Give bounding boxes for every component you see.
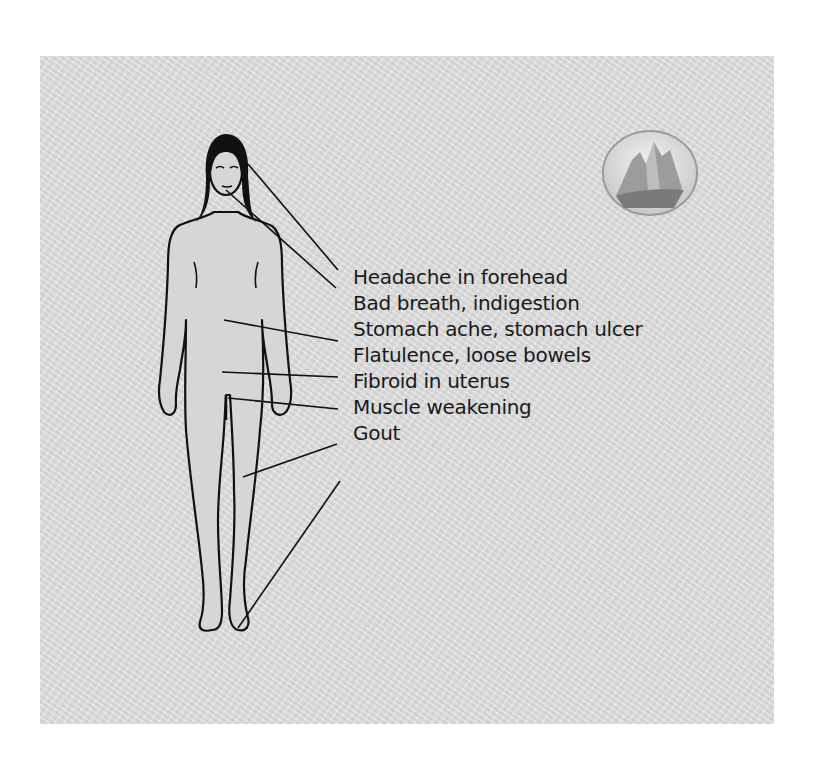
body-outline xyxy=(159,212,291,631)
symptom-labels: Headache in forehead Bad breath, indiges… xyxy=(353,266,642,448)
label-fibroid: Fibroid in uterus xyxy=(353,370,642,396)
label-bad-breath: Bad breath, indigestion xyxy=(353,292,642,318)
label-flatulence: Flatulence, loose bowels xyxy=(353,344,642,370)
mountain-emblem-icon xyxy=(602,130,698,216)
label-muscle: Muscle weakening xyxy=(353,396,642,422)
label-stomach: Stomach ache, stomach ulcer xyxy=(353,318,642,344)
label-headache: Headache in forehead xyxy=(353,266,642,292)
label-gout: Gout xyxy=(353,422,642,448)
